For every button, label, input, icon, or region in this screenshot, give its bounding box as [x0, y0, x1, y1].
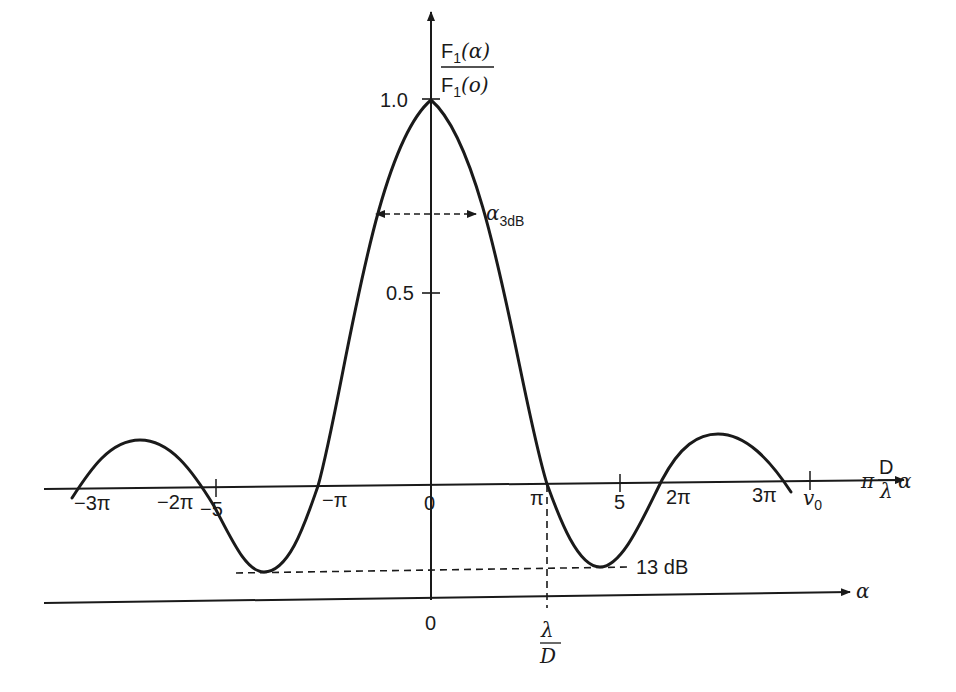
x-label-minus-3pi: −3π [74, 492, 111, 514]
x-label-v0: v0 [803, 486, 822, 513]
y-axis-label: F1(α) F1(o) [441, 39, 494, 100]
x-label-3pi: 3π [752, 484, 777, 506]
sidelobe-level-label: 13 dB [636, 556, 688, 578]
y-tick-label-1: 1.0 [380, 89, 408, 111]
x-label-5: 5 [614, 491, 625, 513]
beamwidth-label: α3dB [486, 201, 524, 229]
svg-text:D: D [539, 644, 556, 668]
lower-x-label-lambda-over-d: λ D [539, 618, 561, 668]
svg-text:π: π [860, 469, 875, 493]
svg-text:D: D [879, 456, 893, 478]
x-label-zero: 0 [424, 492, 435, 514]
x-label-pi: π [530, 487, 544, 509]
upper-x-axis-label: π D λ α [860, 456, 912, 503]
y-label-numerator: F1(α) [441, 39, 490, 66]
lower-x-axis-label: α [856, 579, 870, 603]
antenna-pattern-diagram: 1.0 0.5 F1(α) F1(o) −3π −2π −5 −π 0 π 5 … [0, 0, 956, 692]
sidelobe-level-line [236, 567, 630, 573]
lower-x-label-zero: 0 [425, 612, 436, 634]
y-label-denominator: F1(o) [441, 73, 489, 100]
svg-text:λ: λ [879, 479, 893, 503]
x-label-minus-2pi: −2π [157, 491, 194, 513]
x-label-2pi: 2π [666, 486, 691, 508]
svg-text:λ: λ [540, 618, 554, 642]
svg-text:α: α [898, 469, 912, 493]
x-label-minus-pi: −π [322, 489, 347, 511]
lower-x-axis [44, 592, 850, 603]
y-tick-label-0-5: 0.5 [386, 282, 414, 304]
